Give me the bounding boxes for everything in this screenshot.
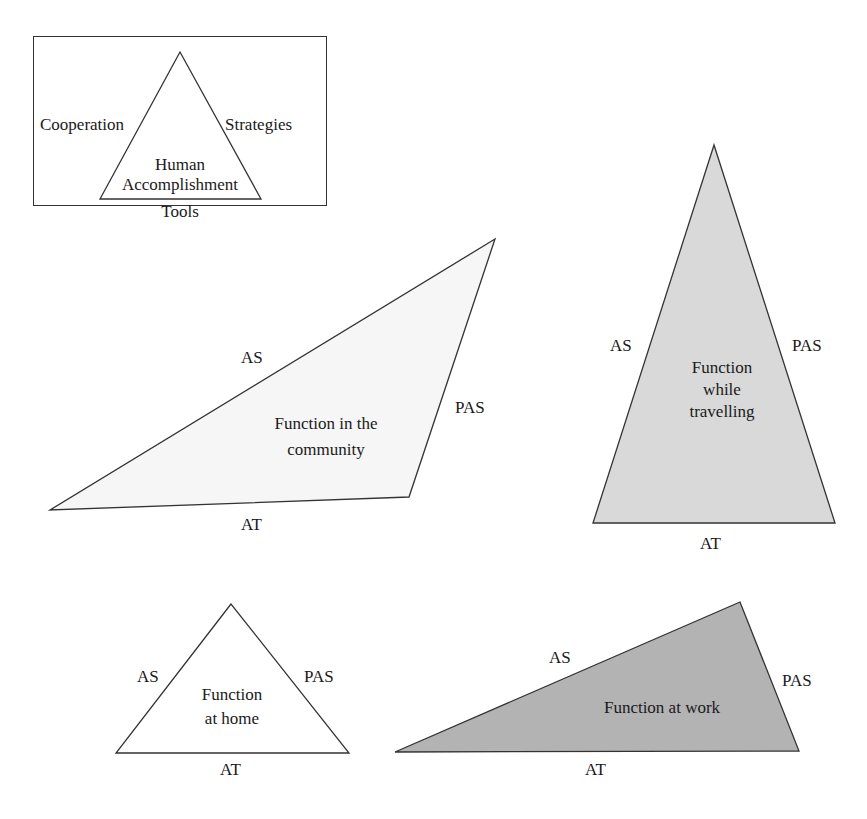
work-pas-label: PAS xyxy=(782,671,812,691)
work-triangle xyxy=(395,602,799,752)
legend-cooperation-label: Cooperation xyxy=(40,115,124,135)
travelling-as-label: AS xyxy=(610,336,632,356)
travelling-center-line1: Function xyxy=(692,358,752,378)
home-center-line2: at home xyxy=(205,709,259,729)
work-center-label: Function at work xyxy=(604,698,720,718)
home-as-label: AS xyxy=(137,667,159,687)
work-as-label: AS xyxy=(549,648,571,668)
legend-strategies-label: Strategies xyxy=(225,115,292,135)
home-center-line1: Function xyxy=(202,685,262,705)
legend-tools-label: Tools xyxy=(161,202,199,222)
legend-center-line1: Human xyxy=(155,155,205,175)
community-at-label: AT xyxy=(241,515,262,535)
community-triangle xyxy=(50,239,495,510)
travelling-center-line3: travelling xyxy=(689,402,754,422)
travelling-at-label: AT xyxy=(700,534,721,554)
home-at-label: AT xyxy=(220,760,241,780)
home-pas-label: PAS xyxy=(304,667,334,687)
community-center-line2: community xyxy=(287,440,364,460)
travelling-center-line2: while xyxy=(703,380,741,400)
community-pas-label: PAS xyxy=(455,398,485,418)
travelling-pas-label: PAS xyxy=(792,336,822,356)
legend-center-line2: Accomplishment xyxy=(122,175,238,195)
travelling-triangle xyxy=(593,145,835,523)
community-as-label: AS xyxy=(241,348,263,368)
work-at-label: AT xyxy=(585,760,606,780)
community-center-line1: Function in the xyxy=(275,414,378,434)
